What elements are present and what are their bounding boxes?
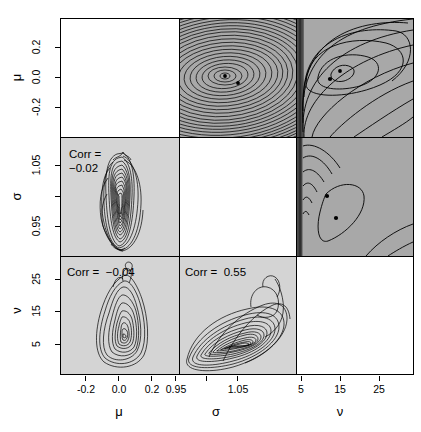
xaxis-title-mu: μ — [99, 404, 139, 419]
corr-label-text: Corr = — [69, 148, 101, 160]
yticklabel-nu-5: 5 — [30, 334, 42, 354]
xticklabel-nu-5: 5 — [291, 383, 311, 395]
xticklabel-mu-0.0: 0.0 — [103, 383, 135, 395]
xticklabel-nu-25: 25 — [369, 383, 389, 395]
xticklabel-sigma-1.05: 1.05 — [221, 383, 255, 395]
mode-point — [338, 69, 342, 73]
panel-mu-mu — [61, 19, 179, 137]
corr-label-nu-sigma: Corr = 0.55 — [185, 265, 246, 279]
panel-sigma-nu — [296, 138, 413, 256]
panel-nu-mu: Corr = −0.04 — [61, 257, 179, 374]
ytick-nu-15 — [55, 311, 60, 312]
ytick-sigma-0.95 — [55, 226, 60, 227]
panel-nu-sigma: Corr = 0.55 — [179, 257, 296, 374]
yticklabel-mu-0.2: 0.2 — [30, 33, 42, 61]
yaxis-title-nu: ν — [9, 291, 24, 331]
corr-label-sigma-mu: Corr =−0.02 — [69, 147, 101, 175]
xticklabel-sigma-0.95: 0.95 — [159, 383, 193, 395]
yaxis-title-sigma: σ — [9, 177, 24, 217]
ytick-mu-2 — [55, 107, 60, 108]
mode-point — [334, 216, 338, 220]
yticklabel-sigma-1.05: 1.05 — [30, 149, 42, 181]
panel-matrix: Corr =−0.02 — [60, 18, 414, 375]
xtick-sigma-1.05 — [237, 376, 238, 381]
panel-nu-nu — [296, 257, 413, 374]
xticklabel-nu-15: 15 — [330, 383, 350, 395]
xtick-nu-25 — [379, 376, 380, 381]
xticklabel-mu-neg0.2: -0.2 — [70, 383, 102, 395]
col-separator-1 — [179, 19, 180, 374]
corr-value-text: 0.55 — [224, 266, 246, 278]
corr-label-text: Corr = — [185, 266, 217, 278]
secondary-point — [328, 77, 332, 81]
ytick-mu-1 — [55, 77, 60, 78]
xtick-mu-neg0.2 — [85, 376, 86, 381]
ytick-sigma-1.05 — [55, 165, 60, 166]
yticklabel-mu-neg0.2: -0.2 — [30, 92, 42, 122]
xaxis-title-nu: ν — [320, 404, 360, 419]
corr-value-text: −0.04 — [106, 266, 135, 278]
panel-sigma-sigma — [179, 138, 296, 256]
xtick-mu-0.0 — [118, 376, 119, 381]
ytick-mu-0 — [55, 47, 60, 48]
panel-mu-nu — [296, 19, 413, 137]
corr-label-text: Corr = — [67, 266, 99, 278]
secondary-point — [236, 81, 240, 85]
contour-ellipse-mu-sigma — [179, 19, 296, 137]
col-separator-2 — [296, 19, 297, 374]
mode-point — [223, 74, 227, 78]
yticklabel-mu-0.0: 0.0 — [30, 63, 42, 91]
contour-banana-mu-nu — [296, 19, 413, 137]
xtick-sigma-1.00 — [206, 376, 207, 381]
corr-value-text: −0.02 — [69, 162, 98, 174]
xtick-mu-0.2 — [151, 376, 152, 381]
xaxis-title-sigma: σ — [196, 404, 236, 419]
xtick-nu-5 — [301, 376, 302, 381]
ytick-nu-5 — [55, 344, 60, 345]
contour-banana-sigma-nu — [296, 138, 413, 256]
yticklabel-nu-25: 25 — [30, 269, 42, 289]
panel-sigma-mu: Corr =−0.02 — [61, 138, 179, 256]
secondary-point — [325, 194, 329, 198]
panel-mu-sigma — [179, 19, 296, 137]
ytick-nu-25 — [55, 279, 60, 280]
xtick-sigma-0.95 — [175, 376, 176, 381]
xtick-nu-15 — [340, 376, 341, 381]
yticklabel-nu-15: 15 — [30, 301, 42, 321]
yaxis-title-mu: μ — [9, 58, 24, 98]
corr-label-nu-mu: Corr = −0.04 — [67, 265, 135, 279]
yticklabel-sigma-0.95: 0.95 — [30, 210, 42, 242]
pairs-plot-figure: Corr =−0.02 — [0, 0, 421, 432]
ytick-sigma-1.00 — [55, 196, 60, 197]
